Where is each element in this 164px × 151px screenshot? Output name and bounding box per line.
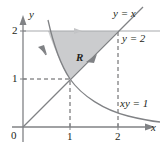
y-tick-label-1: 1 <box>12 73 18 84</box>
y-axis-arrowhead <box>20 15 27 25</box>
x-tick-label-2: 2 <box>115 131 121 142</box>
label-xy-equals-1: xy = 1 <box>120 98 148 109</box>
label-y-equals-x: y = x <box>113 8 136 19</box>
label-y-equals-2: y = 2 <box>122 33 145 44</box>
graph-canvas <box>0 0 164 151</box>
y-tick-label-2: 2 <box>12 25 18 36</box>
math-figure: y x 0 1 2 1 2 y = x y = 2 xy = 1 R <box>0 0 164 151</box>
y-axis-label: y <box>29 9 34 20</box>
x-axis-label: x <box>151 122 156 133</box>
x-tick-label-1: 1 <box>67 131 73 142</box>
region-label-R: R <box>76 52 83 63</box>
line-y-equals-x <box>23 7 143 127</box>
origin-label: 0 <box>11 130 17 141</box>
